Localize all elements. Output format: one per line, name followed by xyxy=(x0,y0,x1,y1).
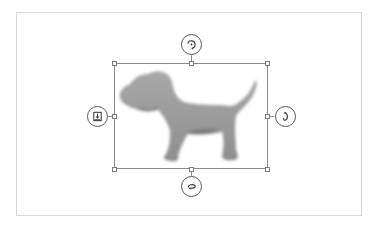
resize-handle-bottom-right[interactable] xyxy=(265,167,270,172)
flip-download-icon xyxy=(91,110,104,123)
connector-right xyxy=(270,116,274,117)
resize-handle-top-right[interactable] xyxy=(265,61,270,66)
rotate-control-right[interactable] xyxy=(275,106,296,127)
connector-top xyxy=(191,55,192,61)
rotate-right-icon xyxy=(279,110,292,123)
resize-handle-bottom-left[interactable] xyxy=(112,167,117,172)
rotate-control-top[interactable] xyxy=(181,34,202,55)
rotate-clockwise-icon xyxy=(185,38,198,51)
flip-horizontal-icon xyxy=(185,180,198,193)
resize-handle-middle-left[interactable] xyxy=(112,114,117,119)
resize-handle-top-left[interactable] xyxy=(112,61,117,66)
flip-control-bottom[interactable] xyxy=(181,176,202,197)
connector-left xyxy=(108,116,112,117)
resize-handle-top-center[interactable] xyxy=(189,61,194,66)
selection-box xyxy=(114,63,268,169)
flip-control-left[interactable] xyxy=(87,106,108,127)
